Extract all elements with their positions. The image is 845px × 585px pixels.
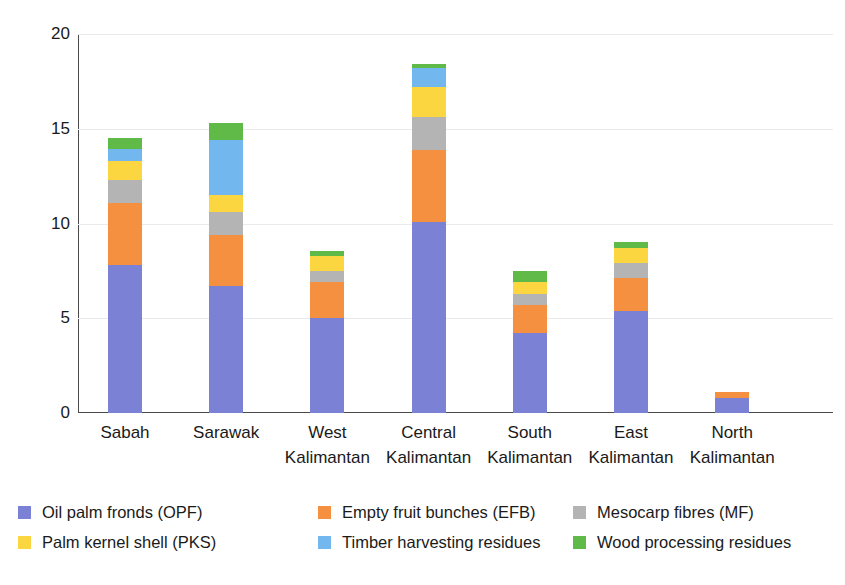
legend-swatch-timber xyxy=(318,536,331,549)
y-tick-label: 5 xyxy=(36,308,70,328)
legend-item-label: Empty fruit bunches (EFB) xyxy=(342,503,535,522)
bar-segment xyxy=(513,294,547,305)
x-axis-category-labels: SabahSarawakWestKalimantanCentralKaliman… xyxy=(78,420,833,486)
bar-segment xyxy=(108,180,142,203)
legend-item-label: Oil palm fronds (OPF) xyxy=(42,503,202,522)
bar-segment xyxy=(209,140,243,195)
bar-segment xyxy=(108,161,142,180)
legend-item-label: Mesocarp fibres (MF) xyxy=(597,503,754,522)
bar-segment xyxy=(412,222,446,413)
bar-segment xyxy=(310,318,344,413)
gridline xyxy=(78,34,833,35)
legend-item[interactable]: Empty fruit bunches (EFB) xyxy=(318,500,535,524)
bar-sabah xyxy=(108,138,142,413)
bar-segment xyxy=(412,87,446,117)
legend-swatch-pks xyxy=(18,536,31,549)
bar-segment xyxy=(209,195,243,212)
gridline xyxy=(78,129,833,130)
gridline xyxy=(78,224,833,225)
x-axis-label-line1: North xyxy=(711,423,753,442)
bar-south-kalimantan xyxy=(513,271,547,413)
bar-east-kalimantan xyxy=(614,242,648,413)
x-axis-label-line1: East xyxy=(614,423,648,442)
legend-item-label: Palm kernel shell (PKS) xyxy=(42,533,216,552)
legend-item[interactable]: Wood processing residues xyxy=(573,530,791,554)
x-axis-label-line2: Kalimantan xyxy=(672,445,792,470)
stacked-bar-chart: million dry tonne 05101520 SabahSarawakW… xyxy=(0,0,845,585)
bar-segment xyxy=(513,333,547,413)
legend-item-label: Timber harvesting residues xyxy=(342,533,540,552)
legend-item[interactable]: Palm kernel shell (PKS) xyxy=(18,530,216,554)
bar-segment xyxy=(108,265,142,413)
legend-item[interactable]: Oil palm fronds (OPF) xyxy=(18,500,202,524)
bar-segment xyxy=(715,398,749,413)
legend-swatch-wood xyxy=(573,536,586,549)
legend-swatch-efb xyxy=(318,506,331,519)
bar-segment xyxy=(209,123,243,140)
y-tick-label: 15 xyxy=(36,119,70,139)
bar-segment xyxy=(513,271,547,282)
bar-segment xyxy=(614,242,648,249)
x-axis-label: NorthKalimantan xyxy=(672,420,792,470)
bar-segment xyxy=(209,212,243,235)
bar-segment xyxy=(209,235,243,286)
bar-segment xyxy=(614,278,648,310)
y-axis-title: million dry tonne xyxy=(2,0,28,66)
legend-item[interactable]: Timber harvesting residues xyxy=(318,530,540,554)
gridline xyxy=(78,318,833,319)
bar-segment xyxy=(614,311,648,413)
bar-segment xyxy=(513,305,547,333)
bar-sarawak xyxy=(209,123,243,413)
bar-north-kalimantan xyxy=(715,392,749,413)
bar-segment xyxy=(513,282,547,293)
bar-segment xyxy=(108,149,142,161)
x-axis-label-line1: Sabah xyxy=(100,423,149,442)
bar-segment xyxy=(108,138,142,148)
bar-central-kalimantan xyxy=(412,64,446,413)
x-axis-label-line1: Central xyxy=(401,423,456,442)
bar-west-kalimantan xyxy=(310,251,344,413)
legend-item-label: Wood processing residues xyxy=(597,533,791,552)
bar-segment xyxy=(412,117,446,149)
y-tick-label: 20 xyxy=(36,24,70,44)
legend-swatch-opf xyxy=(18,506,31,519)
plot-area xyxy=(78,34,833,413)
bar-segment xyxy=(412,150,446,222)
bar-segment xyxy=(108,203,142,266)
x-axis-label-line1: West xyxy=(308,423,346,442)
bar-segment xyxy=(209,286,243,413)
bar-segment xyxy=(614,263,648,278)
bar-segment xyxy=(614,248,648,263)
bar-segment xyxy=(310,282,344,318)
bar-segment xyxy=(310,256,344,271)
bar-segment xyxy=(412,68,446,87)
chart-legend: Oil palm fronds (OPF)Empty fruit bunches… xyxy=(18,500,838,558)
y-tick-label: 10 xyxy=(36,214,70,234)
legend-item[interactable]: Mesocarp fibres (MF) xyxy=(573,500,754,524)
x-axis-label-line1: South xyxy=(508,423,552,442)
bar-segment xyxy=(310,271,344,282)
x-axis-label-line1: Sarawak xyxy=(193,423,259,442)
y-axis-tick-labels: 05101520 xyxy=(32,34,70,413)
legend-swatch-mf xyxy=(573,506,586,519)
